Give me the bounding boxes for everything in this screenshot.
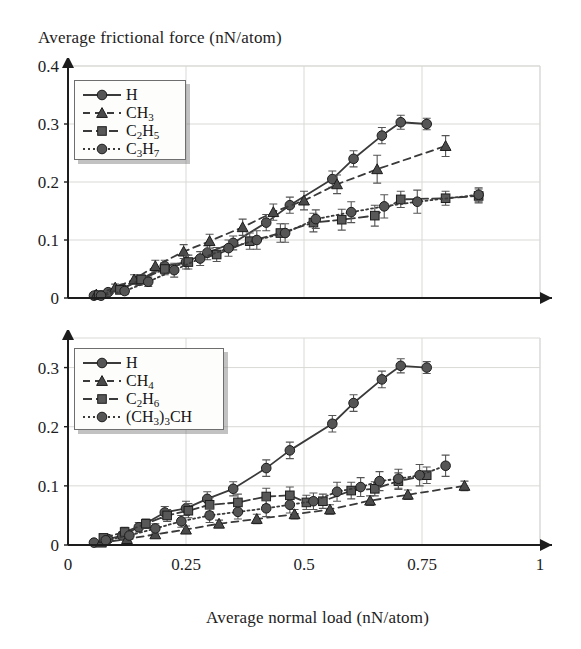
data-point-marker xyxy=(474,190,484,200)
y-tick-label: 0.4 xyxy=(38,58,60,76)
data-point-marker xyxy=(237,222,248,232)
data-point-marker xyxy=(252,235,262,245)
legend-label: H xyxy=(126,355,138,371)
data-point-marker xyxy=(422,363,432,373)
y-axis-title: Average frictional force (nN/atom) xyxy=(38,28,282,48)
data-point-marker xyxy=(412,197,422,207)
data-point-marker xyxy=(337,215,346,224)
data-point-marker xyxy=(311,214,321,224)
x-tick-label: 0.25 xyxy=(171,555,201,574)
legend-item-(CH3)3CH: (CH3)3CH xyxy=(81,408,192,425)
legend-line-sample xyxy=(81,374,123,388)
data-point-marker xyxy=(349,154,359,164)
legend-line-sample xyxy=(81,392,123,406)
data-point-marker xyxy=(328,419,338,429)
legend-label: CH4 xyxy=(126,373,154,389)
data-point-marker xyxy=(332,487,342,497)
data-point-marker xyxy=(176,517,186,527)
legend-label: H xyxy=(126,87,138,103)
data-point-marker xyxy=(375,476,385,486)
data-point-marker xyxy=(97,358,107,368)
data-point-marker xyxy=(346,207,356,217)
data-point-marker xyxy=(268,207,279,217)
legend-marker-icon xyxy=(81,356,123,370)
series-CH4 xyxy=(96,480,470,547)
data-point-marker xyxy=(151,524,161,534)
legend-item-CH3: CH3 xyxy=(81,104,154,121)
x-tick-label: 0 xyxy=(64,555,73,574)
x-tick-label: 1 xyxy=(536,555,545,574)
data-point-marker xyxy=(422,119,432,129)
legend-line-sample xyxy=(81,356,123,370)
y-tick-label: 0.3 xyxy=(38,115,59,134)
data-point-marker xyxy=(160,265,169,274)
legend-item-C3H7: C3H7 xyxy=(81,140,159,157)
data-point-marker xyxy=(98,394,107,403)
legend-line-sample xyxy=(81,88,123,102)
legend-item-C2H6: C2H6 xyxy=(81,390,159,407)
x-axis-title: Average normal load (nN/atom) xyxy=(206,608,429,628)
data-point-marker xyxy=(396,195,405,204)
data-point-marker xyxy=(97,412,107,422)
legend-line-sample xyxy=(81,410,123,424)
y-tick-label: 0.1 xyxy=(38,477,59,496)
chart-panel-bottom: 00.10.20.300.250.50.751 HCH4C2H6(CH3)3CH xyxy=(0,330,581,575)
data-point-marker xyxy=(377,131,387,141)
legend-marker-icon xyxy=(81,392,123,406)
data-point-marker xyxy=(356,482,366,492)
legend-item-H: H xyxy=(81,354,138,371)
data-point-marker xyxy=(441,461,451,471)
data-point-marker xyxy=(224,243,234,253)
data-point-marker xyxy=(101,535,111,545)
data-point-marker xyxy=(396,117,406,127)
data-point-marker xyxy=(228,484,238,494)
data-point-marker xyxy=(120,286,130,296)
legend-marker-icon xyxy=(81,88,123,102)
data-point-marker xyxy=(261,218,271,228)
data-point-marker xyxy=(233,507,243,517)
data-point-marker xyxy=(184,506,193,515)
y-tick-label: 0 xyxy=(51,536,60,555)
x-tick-label: 0.5 xyxy=(293,555,314,574)
data-point-marker xyxy=(169,265,179,275)
y-tick-label: 0.3 xyxy=(38,359,59,378)
data-point-marker xyxy=(261,463,271,473)
legend-label: CH3 xyxy=(126,105,154,121)
data-point-marker xyxy=(163,511,172,520)
data-point-marker xyxy=(299,195,310,205)
figure-root: Average frictional force (nN/atom) 00.10… xyxy=(0,0,581,649)
data-point-marker xyxy=(150,261,161,271)
data-point-marker xyxy=(195,254,205,264)
data-point-marker xyxy=(440,141,451,151)
data-point-marker xyxy=(280,228,290,238)
legend-label: C2H6 xyxy=(126,391,159,407)
data-point-marker xyxy=(261,504,271,514)
data-point-marker xyxy=(285,500,295,510)
data-point-marker xyxy=(142,519,151,528)
legend-line-sample xyxy=(81,106,123,120)
data-point-marker xyxy=(143,277,153,287)
legend-marker-icon xyxy=(81,374,123,388)
legend-bottom: HCH4C2H6(CH3)3CH xyxy=(74,348,224,430)
y-tick-label: 0.1 xyxy=(38,231,59,250)
x-tick-label: 0.75 xyxy=(407,555,437,574)
y-tick-label: 0 xyxy=(51,289,60,308)
chart-panel-top: 00.10.20.30.4 HCH3C2H5C3H7 xyxy=(0,58,581,324)
data-point-marker xyxy=(309,496,319,506)
data-point-marker xyxy=(97,90,107,100)
legend-marker-icon xyxy=(81,142,123,156)
data-point-marker xyxy=(349,398,359,408)
data-point-marker xyxy=(285,446,295,456)
legend-line-sample xyxy=(81,124,123,138)
data-point-marker xyxy=(415,470,425,480)
data-point-marker xyxy=(125,531,135,541)
data-point-marker xyxy=(205,511,215,521)
data-point-marker xyxy=(377,375,387,385)
legend-line-sample xyxy=(81,142,123,156)
data-point-marker xyxy=(96,291,106,301)
legend-marker-icon xyxy=(81,124,123,138)
y-tick-label: 0.2 xyxy=(38,418,59,437)
legend-label: (CH3)3CH xyxy=(126,409,192,425)
data-point-marker xyxy=(371,211,380,220)
data-point-marker xyxy=(98,126,107,135)
